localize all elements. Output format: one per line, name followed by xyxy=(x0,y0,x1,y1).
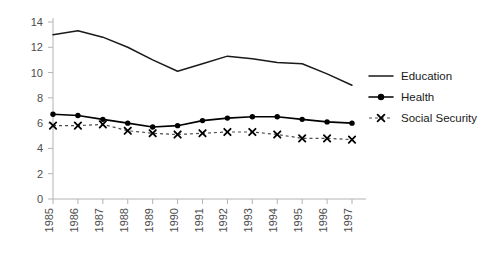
legend-label-social-security: Social Security xyxy=(401,112,477,124)
x-axis: 1985198619871988198919901991199219931994… xyxy=(43,199,366,232)
y-tick-label: 8 xyxy=(37,92,43,104)
legend-item-education: Education xyxy=(369,70,452,82)
data-point-health xyxy=(50,112,55,117)
x-tick-label: 1994 xyxy=(267,208,279,232)
x-tick-label: 1988 xyxy=(118,208,130,232)
x-tick-label: 1989 xyxy=(143,208,155,232)
data-point-health xyxy=(349,120,354,125)
data-point-social-security xyxy=(100,121,106,127)
chart-canvas: 02468101214 1985198619871988198919901991… xyxy=(0,0,485,261)
legend-item-health: Health xyxy=(369,91,434,103)
series-layer xyxy=(50,31,355,143)
x-tick-label: 1985 xyxy=(43,208,55,232)
legend-item-social-security: Social Security xyxy=(369,112,477,124)
y-tick-label: 4 xyxy=(37,142,43,154)
y-tick-label: 6 xyxy=(37,117,43,129)
data-point-health xyxy=(150,124,155,129)
x-tick-label: 1992 xyxy=(217,208,229,232)
data-point-health xyxy=(250,114,255,119)
x-tick-label: 1995 xyxy=(292,208,304,232)
y-tick-label: 12 xyxy=(31,41,43,53)
y-tick-label: 10 xyxy=(31,67,43,79)
legend-label-health: Health xyxy=(401,91,434,103)
data-point-health xyxy=(299,117,304,122)
data-point-health xyxy=(324,119,329,124)
data-point-health xyxy=(200,118,205,123)
y-tick-label: 2 xyxy=(37,168,43,180)
data-point-health xyxy=(175,123,180,128)
legend-label-education: Education xyxy=(401,70,452,82)
data-point-social-security xyxy=(349,136,355,142)
data-point-health xyxy=(75,113,80,118)
legend-marker-health xyxy=(378,94,384,100)
series-line-education xyxy=(53,31,352,85)
x-tick-label: 1986 xyxy=(68,208,80,232)
data-point-social-security xyxy=(75,122,81,128)
y-tick-label: 14 xyxy=(31,16,43,28)
data-point-health xyxy=(125,120,130,125)
x-tick-label: 1990 xyxy=(168,208,180,232)
x-tick-label: 1996 xyxy=(317,208,329,232)
chart-legend: EducationHealthSocial Security xyxy=(369,70,477,124)
line-chart: 02468101214 1985198619871988198919901991… xyxy=(0,0,485,261)
data-point-social-security xyxy=(224,129,230,135)
y-axis: 02468101214 xyxy=(31,16,53,205)
data-point-health xyxy=(225,115,230,120)
x-tick-label: 1987 xyxy=(93,208,105,232)
data-point-health xyxy=(275,114,280,119)
x-tick-label: 1993 xyxy=(242,208,254,232)
y-tick-label: 0 xyxy=(37,193,43,205)
x-tick-label: 1997 xyxy=(342,208,354,232)
data-point-health xyxy=(100,117,105,122)
x-tick-label: 1991 xyxy=(193,208,205,232)
